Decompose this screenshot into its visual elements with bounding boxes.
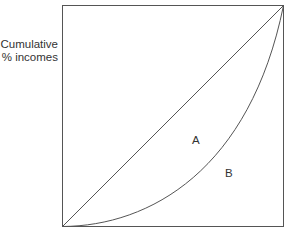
lorenz-chart: A B [0, 0, 290, 238]
area-b-label: B [225, 167, 233, 179]
area-a-label: A [192, 134, 200, 146]
